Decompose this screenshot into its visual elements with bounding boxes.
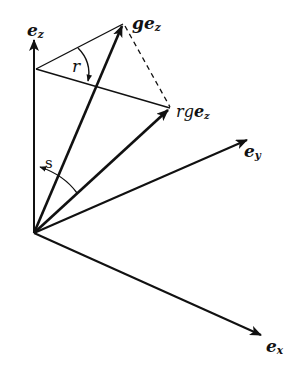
ex-axis — [34, 233, 261, 335]
ey-label: ey — [244, 143, 261, 161]
gez-label: gez — [132, 15, 161, 33]
rgez-label: rgez — [176, 104, 210, 121]
ex-label: ex — [266, 338, 283, 356]
apex-to-rgez-line — [36, 69, 170, 108]
angle-r-label: r — [72, 58, 80, 75]
ey-axis — [34, 140, 247, 233]
rgez-vector — [34, 110, 168, 233]
ez-label: ez — [27, 22, 44, 40]
vector-diagram — [0, 0, 303, 366]
angle-s-label: s — [45, 156, 53, 171]
dashed-projection-line — [125, 26, 170, 107]
